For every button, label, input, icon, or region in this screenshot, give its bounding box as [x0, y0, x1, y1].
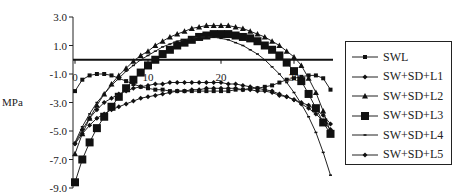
x-tick-label: 0 — [72, 71, 78, 83]
y-tick-label: 1.0 — [53, 40, 67, 52]
legend-label: SW+SD+L5 — [383, 147, 443, 162]
y-axis-label: MPa — [2, 96, 23, 108]
legend-item: SW+SD+L2 — [350, 87, 443, 105]
legend-label: SW+SD+L1 — [383, 69, 443, 84]
legend: SWLSW+SD+L1SW+SD+L2SW+SD+L3SW+SD+L4SW+SD… — [345, 41, 452, 165]
legend-label: SW+SD+L2 — [383, 89, 443, 104]
legend-marker-icon — [350, 89, 380, 103]
legend-item: SW+SD+L1 — [350, 68, 443, 86]
series-group — [71, 23, 335, 187]
legend-label: SW+SD+L3 — [383, 108, 443, 123]
legend-item: SW+SD+L5 — [350, 146, 443, 164]
legend-label: SWL — [383, 50, 408, 65]
legend-item: SW+SD+L3 — [350, 107, 443, 125]
y-tick-label: -5.0 — [50, 125, 68, 137]
series-sw-sd-l3 — [71, 30, 335, 186]
legend-marker-icon — [350, 109, 380, 123]
legend-label: SW+SD+L4 — [383, 128, 443, 143]
y-axis: 3.01.0-1.0-3.0-5.0-7.0-9.0 — [50, 11, 73, 194]
legend-item: SWL — [350, 48, 408, 66]
series-sw-sd-l1 — [73, 86, 334, 147]
legend-marker-icon — [350, 128, 380, 142]
series-sw-sd-l5 — [73, 80, 334, 146]
y-tick-label: -7.0 — [50, 154, 68, 166]
legend-marker-icon — [350, 148, 380, 162]
legend-marker-icon — [350, 70, 380, 84]
y-tick-label: -9.0 — [50, 182, 68, 194]
y-tick-label: -3.0 — [50, 97, 68, 109]
legend-item: SW+SD+L4 — [350, 126, 443, 144]
legend-marker-icon — [350, 50, 380, 64]
y-tick-label: 3.0 — [53, 11, 67, 23]
y-tick-label: -1.0 — [50, 68, 68, 80]
